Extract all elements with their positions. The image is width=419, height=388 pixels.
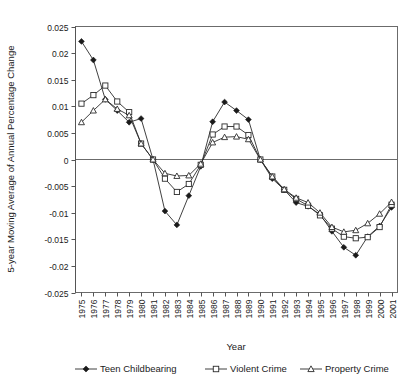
x-tick-label: 1992: [280, 299, 290, 318]
marker-diamond: [210, 119, 216, 125]
marker-diamond: [353, 252, 359, 258]
marker-square: [210, 132, 215, 137]
marker-square: [162, 176, 167, 181]
x-tick-label: 1977: [101, 299, 111, 318]
series-3: [78, 96, 394, 234]
marker-diamond: [186, 193, 192, 199]
y-tick-label: 0.005: [47, 129, 69, 139]
x-tick-label: 1991: [268, 299, 278, 318]
x-tick-label: 1983: [173, 299, 183, 318]
series-line: [81, 99, 391, 231]
marker-square: [222, 124, 227, 129]
y-tick-label: 0.025: [47, 23, 69, 33]
x-tick-label: 1997: [340, 299, 350, 318]
marker-square: [174, 189, 179, 194]
marker-triangle: [353, 227, 359, 232]
x-tick-label: 1979: [125, 299, 135, 318]
marker-diamond: [83, 366, 89, 372]
chart-legend: Teen ChildbearingViolent CrimeProperty C…: [75, 363, 389, 374]
y-tick-label: -0.02: [49, 262, 69, 272]
legend-label: Violent Crime: [230, 363, 287, 374]
x-tick-label: 1989: [244, 299, 254, 318]
x-tick-label: 1996: [328, 299, 338, 318]
x-tick-label: 1990: [256, 299, 266, 318]
x-tick-label: 1988: [233, 299, 243, 318]
y-tick-label: -0.015: [44, 235, 68, 245]
y-tick-label: -0.01: [49, 209, 69, 219]
marker-square: [103, 83, 108, 88]
x-tick-label: 1975: [77, 299, 87, 318]
series-1: [79, 38, 395, 258]
series-line: [81, 41, 391, 255]
marker-square: [365, 235, 370, 240]
x-tick-label: 1985: [197, 299, 207, 318]
marker-square: [353, 236, 358, 241]
marker-square: [186, 181, 191, 186]
marker-triangle: [305, 200, 311, 205]
chart-figure: 0.0250.020.0150.010.0050-0.005-0.01-0.01…: [0, 0, 419, 388]
marker-diamond: [79, 38, 85, 44]
legend-item-2: Violent Crime: [205, 363, 287, 374]
x-tick-label: 1984: [185, 299, 195, 318]
series-layer: [78, 38, 394, 258]
x-tick-label: 1993: [292, 299, 302, 318]
y-tick-label: -0.025: [44, 289, 68, 299]
x-tick-label: 1987: [221, 299, 231, 318]
x-tick-label: 1999: [364, 299, 374, 318]
marker-square: [377, 224, 382, 229]
x-tick-label: 1995: [316, 299, 326, 318]
x-tick-label: 1998: [352, 299, 362, 318]
marker-square: [115, 99, 120, 104]
x-tick-label: 2001: [388, 299, 398, 318]
x-axis: 1975197619771978197919801981198219831984…: [77, 293, 398, 319]
legend-label: Property Crime: [325, 363, 389, 374]
y-tick-label: 0.02: [52, 49, 69, 59]
marker-square: [234, 124, 239, 129]
marker-square: [341, 234, 346, 239]
x-tick-label: 1980: [137, 299, 147, 318]
x-tick-label: 1994: [304, 299, 314, 318]
marker-diamond: [90, 57, 96, 63]
y-tick-label: -0.005: [44, 182, 68, 192]
x-tick-label: 1981: [149, 299, 159, 318]
y-axis: 0.0250.020.0150.010.0050-0.005-0.01-0.01…: [44, 23, 75, 299]
y-tick-label: 0.015: [47, 76, 69, 86]
x-tick-label: 1986: [209, 299, 219, 318]
y-tick-label: 0: [64, 156, 69, 166]
x-tick-label: 1978: [113, 299, 123, 318]
legend-item-1: Teen Childbearing: [75, 363, 177, 374]
marker-square: [91, 93, 96, 98]
marker-diamond: [138, 116, 144, 122]
marker-square: [213, 366, 218, 371]
legend-label: Teen Childbearing: [100, 363, 177, 374]
legend-item-3: Property Crime: [300, 363, 389, 374]
y-tick-label: 0.01: [52, 102, 69, 112]
marker-square: [79, 101, 84, 106]
x-axis-title: Year: [226, 341, 245, 352]
x-tick-label: 1976: [89, 299, 99, 318]
y-axis-title: 5-year Moving Average of Annual Percenta…: [5, 46, 16, 273]
x-tick-label: 1982: [161, 299, 171, 318]
marker-diamond: [222, 99, 228, 105]
series-2: [79, 83, 394, 241]
x-tick-label: 2000: [376, 299, 386, 318]
line-chart: 0.0250.020.0150.010.0050-0.005-0.01-0.01…: [0, 0, 419, 388]
